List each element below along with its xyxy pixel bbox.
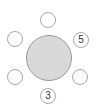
seat-upper-left — [7, 31, 23, 47]
seat-label: 5 — [78, 35, 84, 45]
seat-top — [40, 12, 56, 28]
seat-upper-right: 5 — [73, 32, 89, 48]
seat-bottom: 3 — [40, 88, 56, 104]
seat-lower-right — [72, 69, 88, 85]
seating-diagram: 5 3 — [0, 0, 98, 110]
seat-label: 3 — [45, 91, 51, 101]
round-table — [26, 35, 72, 81]
seat-lower-left — [7, 69, 23, 85]
